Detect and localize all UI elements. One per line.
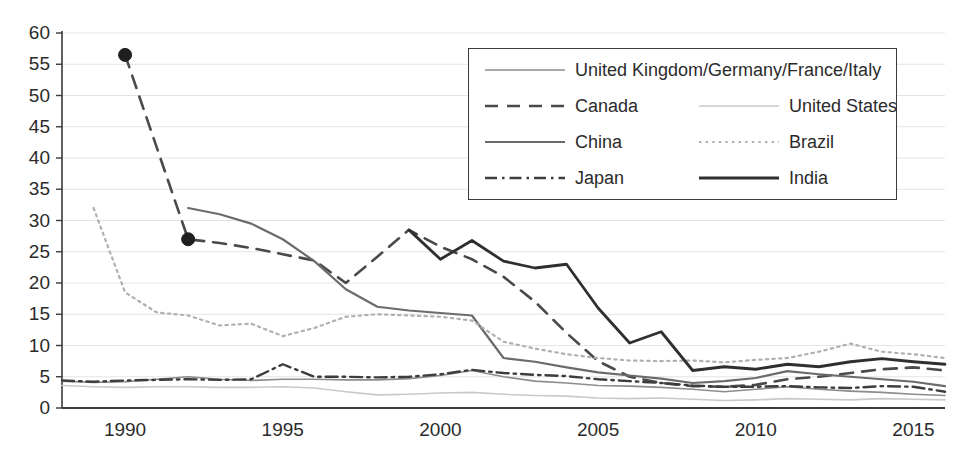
series-line [188, 208, 945, 386]
x-axis-tick-label: 1990 [85, 420, 165, 439]
y-axis-tick-label: 10 [12, 336, 50, 355]
legend-label: Canada [575, 96, 638, 116]
y-axis-tick-label: 15 [12, 304, 50, 323]
legend-line-swatch-icon [697, 168, 781, 188]
y-axis-tick-label: 45 [12, 117, 50, 136]
legend-item-japan[interactable]: Japan [483, 161, 624, 195]
series-line [409, 230, 945, 371]
legend-label: China [575, 132, 622, 152]
y-axis-tick-label: 25 [12, 242, 50, 261]
legend-label: Brazil [789, 132, 834, 152]
legend-label: United States [789, 96, 897, 116]
y-axis-tick-label: 55 [12, 54, 50, 73]
data-point-marker [182, 233, 195, 246]
x-axis-tick-label: 2010 [716, 420, 796, 439]
chart-figure: 051015202530354045505560 199019952000200… [0, 0, 953, 462]
legend-line-swatch-icon [697, 96, 781, 116]
y-axis-tick-label: 35 [12, 179, 50, 198]
x-axis-tick-label: 2015 [873, 420, 953, 439]
y-axis-tick-label: 60 [12, 23, 50, 42]
x-axis-tick-label: 2005 [558, 420, 638, 439]
legend-item-united-states[interactable]: United States [697, 89, 897, 123]
x-axis-tick-label: 1995 [243, 420, 323, 439]
legend-line-swatch-icon [483, 132, 567, 152]
legend-line-swatch-icon [697, 132, 781, 152]
series-line [94, 208, 945, 362]
axis-ticks [56, 33, 62, 408]
series-line [62, 386, 945, 401]
legend-item-china[interactable]: China [483, 125, 622, 159]
legend-label: Japan [575, 168, 624, 188]
y-axis-tick-label: 20 [12, 273, 50, 292]
y-axis-tick-label: 30 [12, 211, 50, 230]
legend-item-india[interactable]: India [697, 161, 828, 195]
y-axis-tick-label: 5 [12, 367, 50, 386]
y-axis-tick-label: 0 [12, 398, 50, 417]
y-axis-tick-label: 40 [12, 148, 50, 167]
legend-item-united-kingdom-germany-france-italy[interactable]: United Kingdom/Germany/France/Italy [483, 53, 881, 87]
legend-item-canada[interactable]: Canada [483, 89, 638, 123]
legend-line-swatch-icon [483, 60, 567, 80]
legend-item-brazil[interactable]: Brazil [697, 125, 834, 159]
x-axis-tick-label: 2000 [400, 420, 480, 439]
y-axis-tick-label: 50 [12, 86, 50, 105]
legend-label: United Kingdom/Germany/France/Italy [575, 60, 881, 80]
legend-label: India [789, 168, 828, 188]
legend-line-swatch-icon [483, 96, 567, 116]
chart-legend: United Kingdom/Germany/France/ItalyCanad… [468, 48, 897, 200]
data-point-marker [119, 48, 132, 61]
legend-line-swatch-icon [483, 168, 567, 188]
